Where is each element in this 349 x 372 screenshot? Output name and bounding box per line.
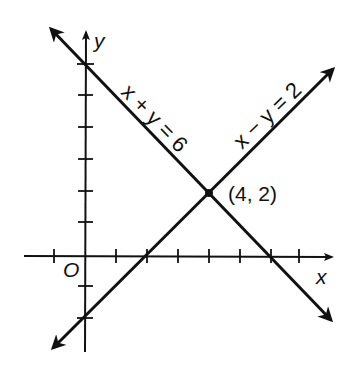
origin-label: O	[63, 258, 79, 281]
intersection-point	[205, 189, 213, 197]
line-x-plus-y-equals-6	[51, 29, 331, 320]
line-x-minus-y-equals-2	[53, 69, 333, 348]
intersection-label: (4, 2)	[228, 182, 277, 205]
y-axis	[77, 32, 94, 352]
x-axis-label: x	[315, 265, 328, 288]
line-sum-label: x + y = 6	[116, 79, 193, 157]
line-diff-label: x − y = 2	[228, 77, 306, 154]
y-axis-label: y	[92, 29, 106, 52]
coordinate-plane-diagram: y x O x + y = 6 x − y = 2 (4, 2)	[0, 0, 349, 372]
